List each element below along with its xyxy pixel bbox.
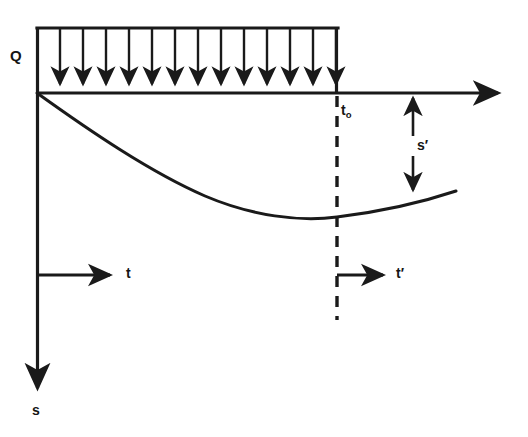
settlement-curve [37, 93, 456, 219]
load-label-q: Q [10, 48, 22, 63]
t-axis-label: t [126, 266, 131, 280]
t-prime-axis-label: t′ [396, 266, 404, 280]
settlement-diagram: Q to s′ t t′ s [0, 0, 528, 437]
t0-label: to [341, 103, 352, 119]
uniform-load-block [37, 27, 338, 93]
s-axis-label: s [32, 403, 40, 417]
s-prime-label: s′ [417, 138, 428, 152]
diagram-canvas [0, 0, 528, 437]
load-arrows [60, 29, 336, 84]
t0-label-subscript: o [346, 109, 352, 120]
